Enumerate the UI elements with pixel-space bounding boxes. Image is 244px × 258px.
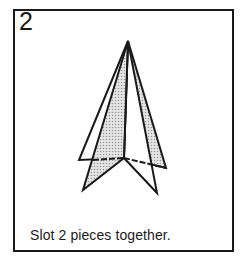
right-white-face [124, 41, 157, 193]
step-caption: Slot 2 pieces together. [30, 227, 171, 243]
assembly-diagram [0, 0, 244, 258]
left-shaded-piece [83, 41, 128, 190]
